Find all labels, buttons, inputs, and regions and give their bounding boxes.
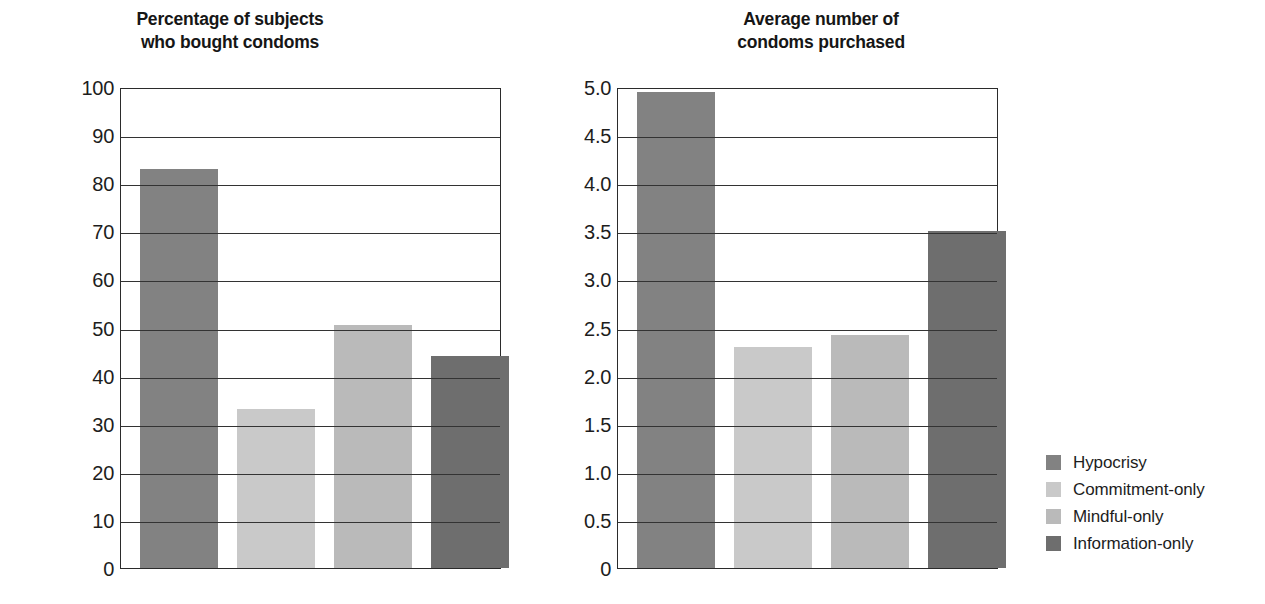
gridline <box>618 233 997 234</box>
legend-item-label: Mindful-only <box>1073 507 1163 527</box>
gridline <box>618 281 997 282</box>
legend-item-information-only: Information-only <box>1046 530 1261 557</box>
legend-swatch-icon <box>1046 509 1061 524</box>
legend-item-commitment-only: Commitment-only <box>1046 476 1261 503</box>
figure-two-bar-charts: Percentage of subjects who bought condom… <box>0 0 1265 604</box>
y-axis-tick-label: 1.0 <box>557 461 611 484</box>
gridline <box>618 474 997 475</box>
y-axis-tick-label: 0.5 <box>557 509 611 532</box>
gridline <box>121 185 500 186</box>
gridline <box>618 185 997 186</box>
gridline <box>618 426 997 427</box>
y-axis-tick-label: 3.0 <box>557 269 611 292</box>
chart-title-percentage: Percentage of subjects who bought condom… <box>28 8 432 54</box>
gridline <box>618 330 997 331</box>
gridline <box>121 330 500 331</box>
y-axis-tick-label: 0 <box>557 558 611 581</box>
y-axis-tick-label: 0 <box>60 558 114 581</box>
plot-area-percentage <box>120 88 501 569</box>
plot-area-average <box>617 88 998 569</box>
y-axis-tick-label: 2.5 <box>557 317 611 340</box>
bar-group-percentage <box>121 89 500 568</box>
legend-item-label: Commitment-only <box>1073 480 1205 500</box>
y-axis-tick-label: 10 <box>60 509 114 532</box>
y-axis-tick-label: 1.5 <box>557 413 611 436</box>
gridline <box>121 281 500 282</box>
y-axis-tick-label: 20 <box>60 461 114 484</box>
y-axis-tick-label: 80 <box>60 173 114 196</box>
legend-item-label: Information-only <box>1073 534 1193 554</box>
legend-item-hypocrisy: Hypocrisy <box>1046 449 1261 476</box>
y-axis-ticks-average: 5.04.54.03.53.02.52.01.51.00.50 <box>549 88 611 569</box>
gridline <box>121 522 500 523</box>
y-axis-tick-label: 4.5 <box>557 125 611 148</box>
bar-hypocrisy <box>140 169 218 568</box>
chart-panel-average: Average number of condoms purchased 5.04… <box>497 0 1027 604</box>
bar-mindful-only <box>831 335 909 568</box>
y-axis-tick-label: 70 <box>60 221 114 244</box>
y-axis-tick-label: 30 <box>60 413 114 436</box>
legend: HypocrisyCommitment-onlyMindful-onlyInfo… <box>1046 449 1261 557</box>
y-axis-tick-label: 50 <box>60 317 114 340</box>
bar-mindful-only <box>334 325 412 568</box>
chart-panel-percentage: Percentage of subjects who bought condom… <box>0 0 530 604</box>
legend-swatch-icon <box>1046 482 1061 497</box>
chart-title-average: Average number of condoms purchased <box>619 8 1023 54</box>
y-axis-tick-label: 100 <box>60 77 114 100</box>
bar-group-average <box>618 89 997 568</box>
legend-item-mindful-only: Mindful-only <box>1046 503 1261 530</box>
bar-commitment-only <box>734 347 812 568</box>
legend-swatch-icon <box>1046 455 1061 470</box>
y-axis-ticks-percentage: 1009080706050403020100 <box>52 88 114 569</box>
gridline <box>618 137 997 138</box>
gridline <box>121 233 500 234</box>
y-axis-tick-label: 4.0 <box>557 173 611 196</box>
legend-swatch-icon <box>1046 536 1061 551</box>
gridline <box>618 378 997 379</box>
y-axis-tick-label: 40 <box>60 365 114 388</box>
y-axis-tick-label: 2.0 <box>557 365 611 388</box>
gridline <box>121 426 500 427</box>
y-axis-tick-label: 90 <box>60 125 114 148</box>
gridline <box>121 378 500 379</box>
y-axis-tick-label: 60 <box>60 269 114 292</box>
gridline <box>121 137 500 138</box>
bar-commitment-only <box>237 409 315 568</box>
gridline <box>121 474 500 475</box>
legend-item-label: Hypocrisy <box>1073 453 1147 473</box>
gridline <box>618 522 997 523</box>
y-axis-tick-label: 5.0 <box>557 77 611 100</box>
y-axis-tick-label: 3.5 <box>557 221 611 244</box>
